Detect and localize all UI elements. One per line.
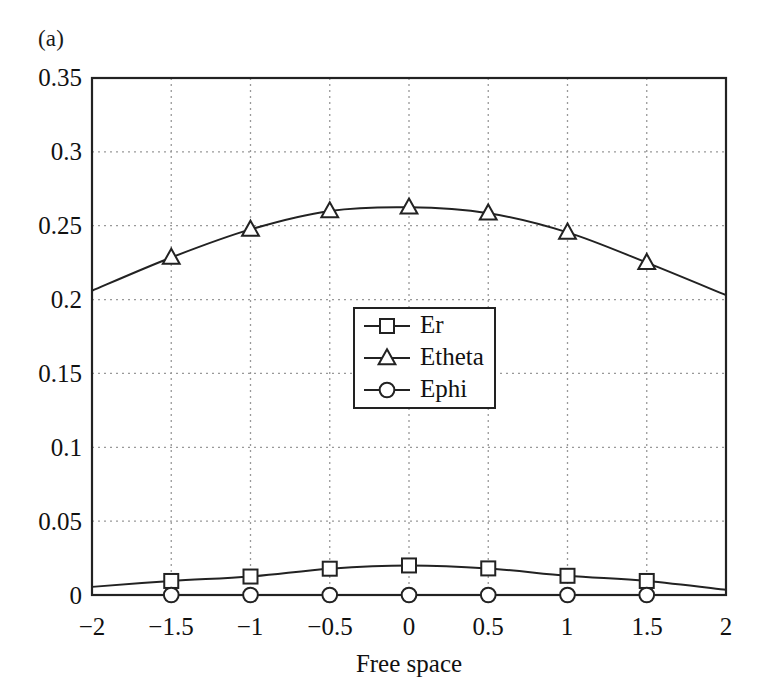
legend-label-er: Er bbox=[420, 311, 444, 338]
marker-circle-ephi bbox=[164, 588, 179, 603]
figure-panel-a: (a) 0.35 0.3 0.25 0.2 0.15 0.1 0.05 0 −2… bbox=[0, 0, 773, 699]
marker-square-er bbox=[561, 569, 575, 583]
marker-square-er bbox=[164, 574, 178, 588]
marker-circle-ephi bbox=[243, 588, 258, 603]
marker-square-er bbox=[640, 574, 654, 588]
marker-circle-ephi bbox=[481, 588, 496, 603]
marker-square-er bbox=[244, 570, 258, 584]
marker-triangle-etheta bbox=[401, 199, 418, 214]
marker-square-er bbox=[402, 558, 416, 572]
series-line-etheta bbox=[92, 207, 726, 295]
marker-circle-ephi bbox=[560, 588, 575, 603]
marker-circle-ephi bbox=[639, 588, 654, 603]
legend-label-etheta: Etheta bbox=[420, 343, 484, 370]
marker-triangle-etheta bbox=[638, 254, 655, 269]
marker-circle-ephi bbox=[402, 588, 417, 603]
legend-box[interactable]: ErEthetaEphi bbox=[354, 308, 495, 408]
legend-label-ephi: Ephi bbox=[420, 375, 467, 402]
legend-marker-square bbox=[380, 319, 394, 333]
marker-square-er bbox=[323, 562, 337, 576]
marker-circle-ephi bbox=[322, 588, 337, 603]
marker-square-er bbox=[481, 561, 495, 575]
plot-canvas: ErEthetaEphi bbox=[0, 0, 773, 699]
legend-marker-circle bbox=[380, 383, 395, 398]
